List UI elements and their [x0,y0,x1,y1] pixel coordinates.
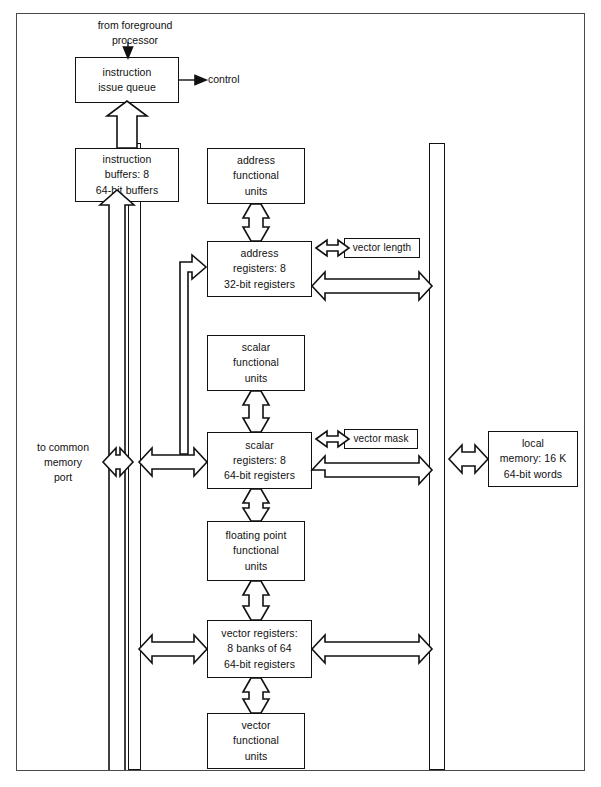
box-vector-length-label: vector length [350,240,415,257]
bus-left-inner [109,190,125,770]
box-scalar-functional-units-label: scalarfunctionalunits [230,339,282,387]
box-scalar-functional-units: scalarfunctionalunits [207,335,305,391]
box-floating-point-functional-units-label: floating pointfunctionalunits [223,527,290,575]
box-local-memory-label: localmemory: 16 K64-bit words [497,435,570,483]
box-vector-functional-units: vectorfunctionalunits [207,713,305,769]
box-local-memory: localmemory: 16 K64-bit words [488,431,578,487]
bus-left-outer [128,143,141,770]
box-vector-length: vector length [344,238,420,258]
label-to-common-memory-port: to commonmemoryport [24,440,102,486]
box-vector-registers: vector registers:8 banks of 6464-bit reg… [207,620,312,678]
box-instruction-issue-queue: instructionissue queue [75,57,179,103]
box-instruction-buffers-label: instructionbuffers: 864-bit buffers [93,151,162,199]
box-address-functional-units: addressfunctionalunits [207,148,305,204]
box-address-registers-label: addressregisters: 832-bit registers [221,245,298,293]
box-instruction-issue-queue-label: instructionissue queue [95,64,159,96]
box-address-registers: addressregisters: 832-bit registers [207,241,312,297]
diagram-canvas: from foregroundprocessor control to comm… [0,0,601,787]
box-vector-mask: vector mask [344,429,418,449]
box-instruction-buffers: instructionbuffers: 864-bit buffers [75,148,179,202]
label-control: control [208,72,278,87]
box-floating-point-functional-units: floating pointfunctionalunits [207,521,305,581]
box-vector-mask-label: vector mask [350,431,411,448]
box-address-functional-units-label: addressfunctionalunits [230,152,282,200]
box-scalar-registers-label: scalarregisters: 864-bit registers [221,437,298,485]
box-scalar-registers: scalarregisters: 864-bit registers [207,432,312,489]
bus-right [429,143,445,770]
box-vector-registers-label: vector registers:8 banks of 6464-bit reg… [218,625,300,673]
label-from-foreground-processor: from foregroundprocessor [70,18,200,48]
box-vector-functional-units-label: vectorfunctionalunits [230,717,282,765]
